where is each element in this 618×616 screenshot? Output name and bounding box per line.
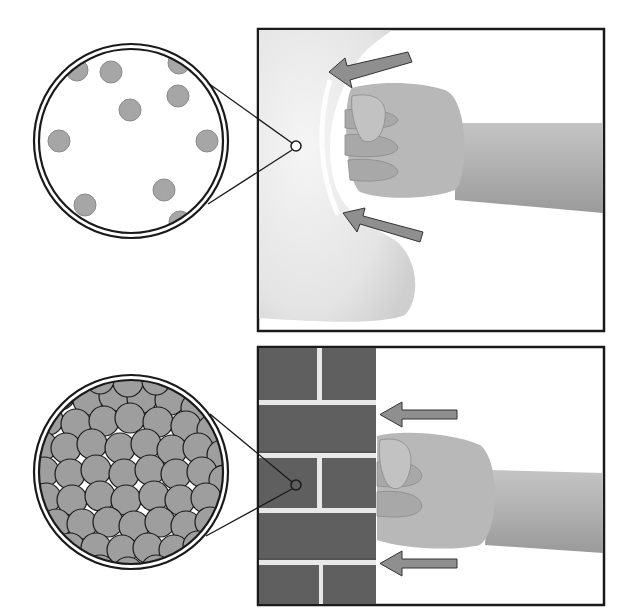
force-comparison-diagram [0, 0, 618, 616]
particles-dense [27, 366, 239, 587]
fist [377, 433, 495, 549]
pillow-panel [258, 29, 604, 331]
magnified-view-dense [27, 366, 239, 587]
fist [345, 83, 464, 198]
zoom-source-marker [291, 141, 301, 151]
brick-wall-panel [258, 347, 604, 605]
magnified-view-sparse [34, 44, 228, 238]
brick-wall [259, 348, 376, 605]
arm [455, 123, 604, 213]
arm [485, 470, 604, 553]
